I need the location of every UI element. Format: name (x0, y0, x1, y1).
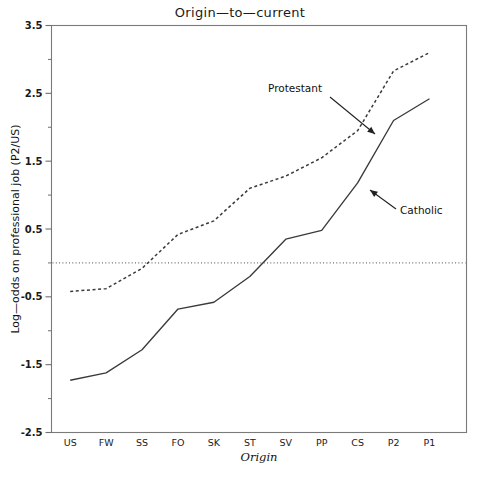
x-tick-label: CS (351, 437, 364, 448)
x-tick-label: SK (208, 437, 221, 448)
series-line-protestant (70, 53, 429, 292)
annotation-arrowhead-catholic (370, 190, 378, 197)
y-tick-label: 1.5 (25, 156, 43, 167)
chart-title: Origin—to—current (175, 5, 305, 20)
x-tick-label: SV (280, 437, 293, 448)
y-axis-ticks (46, 26, 52, 433)
x-tick-label: P1 (424, 437, 436, 448)
y-tick-label: 2.5 (25, 88, 43, 99)
plot-frame (52, 26, 467, 433)
x-tick-label: ST (244, 437, 256, 448)
y-tick-label: -1.5 (21, 359, 43, 370)
annotation-label-protestant: Protestant (268, 82, 322, 94)
x-axis-tick-labels: USFWSSFOSKSTSVPPCSP2P1 (64, 437, 436, 448)
x-axis-label: Origin (240, 450, 277, 464)
series-lines (70, 53, 429, 381)
x-tick-label: SS (136, 437, 148, 448)
y-tick-label: 3.5 (25, 20, 43, 31)
y-tick-label: -0.5 (21, 291, 43, 302)
x-tick-label: FW (99, 437, 114, 448)
x-tick-label: PP (316, 437, 328, 448)
y-tick-label: -2.5 (21, 427, 43, 438)
chart-svg: Origin—to—current 3.52.51.50.5-0.5-1.5-2… (0, 0, 480, 478)
y-tick-label: 0.5 (25, 224, 43, 235)
chart-container: Origin—to—current 3.52.51.50.5-0.5-1.5-2… (0, 0, 480, 478)
annotation-label-catholic: Catholic (400, 204, 443, 216)
y-axis-label: Log—odds on professional job (P2/US) (9, 124, 22, 333)
series-line-catholic (70, 99, 429, 381)
series-annotations: ProtestantCatholic (268, 82, 443, 216)
x-tick-label: P2 (388, 437, 400, 448)
annotation-arrow-protestant (330, 97, 375, 134)
x-tick-label: FO (171, 437, 184, 448)
x-tick-label: US (64, 437, 77, 448)
y-axis-tick-labels: 3.52.51.50.5-0.5-1.5-2.5 (21, 20, 43, 438)
